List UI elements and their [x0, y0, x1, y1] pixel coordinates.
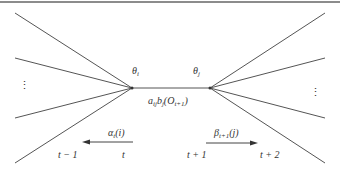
time-t-minus-1: t − 1 — [58, 150, 78, 160]
beta-arrowhead-icon — [250, 141, 258, 146]
theta-i-label: θi — [132, 66, 139, 78]
state-i-node — [131, 87, 134, 90]
right-ellipsis: ⋮ — [310, 87, 321, 98]
diagram-lines — [0, 0, 340, 171]
beta-label: βt+1(j) — [214, 128, 239, 140]
right-fan — [210, 13, 325, 163]
time-t: t — [122, 150, 125, 160]
time-t-plus-1: t + 1 — [187, 150, 207, 160]
state-j-node — [209, 87, 212, 90]
time-t-plus-2: t + 2 — [260, 150, 280, 160]
left-ellipsis: ⋮ — [19, 80, 30, 91]
transition-emission-label: aijbj(Ot+1) — [148, 96, 188, 108]
left-fan — [15, 13, 132, 163]
alpha-label: αt(i) — [108, 128, 125, 140]
trellis-diagram: θi θj aijbj(Ot+1) ⋮ ⋮ αt(i) βt+1(j) t − … — [0, 0, 340, 171]
alpha-arrowhead-icon — [82, 140, 90, 145]
theta-j-label: θj — [193, 66, 200, 78]
